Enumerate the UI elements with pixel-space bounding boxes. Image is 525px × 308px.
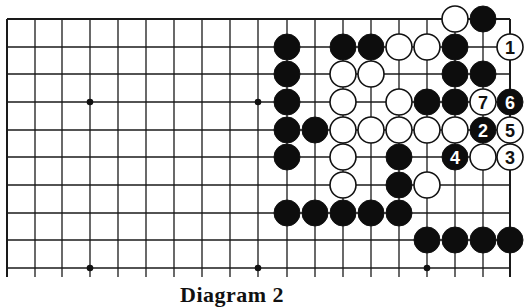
white-stone (470, 144, 496, 170)
black-stone (442, 61, 468, 87)
move-number-label: 2 (478, 121, 488, 141)
star-point (87, 99, 94, 106)
star-point (255, 265, 262, 272)
move-number-label: 1 (505, 38, 515, 58)
black-stone (302, 200, 328, 226)
white-stone (330, 61, 356, 87)
black-stone (274, 89, 300, 115)
black-stone (274, 61, 300, 87)
black-stone (386, 200, 412, 226)
black-stone (274, 117, 300, 143)
black-stone (442, 34, 468, 60)
white-stone (442, 6, 468, 32)
white-stone (386, 34, 412, 60)
move-number-label: 5 (505, 121, 515, 141)
white-stone (386, 117, 412, 143)
move-number-label: 7 (478, 93, 488, 113)
white-stone-move-1: 1 (497, 34, 523, 60)
black-stone (470, 61, 496, 87)
white-stone-move-5: 5 (497, 117, 523, 143)
white-stone (442, 117, 468, 143)
black-stone (274, 144, 300, 170)
black-stone (330, 200, 356, 226)
black-stone (414, 89, 440, 115)
white-stone-move-7: 7 (470, 89, 496, 115)
black-stone-move-2: 2 (470, 117, 496, 143)
move-number-label: 3 (505, 148, 515, 168)
star-point (255, 99, 262, 106)
black-stone (442, 89, 468, 115)
white-stone-move-3: 3 (497, 144, 523, 170)
black-stone (470, 6, 496, 32)
white-stone (358, 117, 384, 143)
black-stone (386, 144, 412, 170)
black-stone (470, 227, 496, 253)
star-point (87, 265, 94, 272)
black-stone (442, 227, 468, 253)
black-stone (358, 34, 384, 60)
white-stone (330, 117, 356, 143)
black-stone (497, 227, 523, 253)
white-stone (414, 172, 440, 198)
move-number-label: 6 (505, 93, 515, 113)
black-stone (414, 227, 440, 253)
star-point (424, 265, 431, 272)
black-stone (302, 117, 328, 143)
black-stone-move-4: 4 (442, 144, 468, 170)
white-stone (414, 34, 440, 60)
white-stone (358, 61, 384, 87)
move-number-label: 4 (450, 148, 460, 168)
diagram-caption: Diagram 2 (180, 282, 284, 308)
black-stone (358, 200, 384, 226)
black-stone (330, 34, 356, 60)
white-stone (330, 144, 356, 170)
white-stone (330, 172, 356, 198)
white-stone (386, 89, 412, 115)
black-stone (386, 172, 412, 198)
white-stone (414, 117, 440, 143)
stones: 1762543 (274, 6, 523, 253)
black-stone-move-6: 6 (497, 89, 523, 115)
black-stone (274, 34, 300, 60)
white-stone (330, 89, 356, 115)
black-stone (274, 200, 300, 226)
